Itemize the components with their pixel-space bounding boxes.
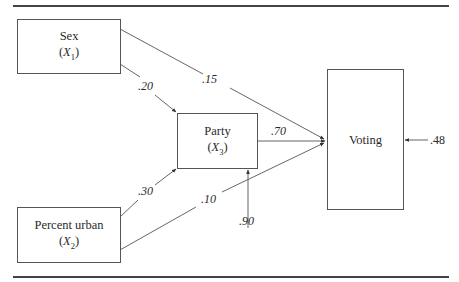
arrow-sex-to-party [120, 64, 140, 77]
coef-party-to-voting: .70 [271, 124, 286, 139]
arrow-urban-to-voting [120, 207, 196, 250]
arrow-urban-to-party [120, 200, 138, 217]
node-party-variable: (X3) [207, 139, 227, 160]
node-party: Party (X3) [177, 113, 258, 169]
coef-urban-to-voting: .10 [201, 192, 216, 207]
node-voting: Voting [327, 69, 404, 210]
node-percent-urban: Percent urban (X2) [17, 207, 121, 263]
node-sex-label: Sex [60, 28, 79, 44]
node-urban-label: Percent urban [34, 217, 103, 233]
node-sex-variable: (X1) [59, 44, 79, 65]
coef-party-residual: .90 [239, 214, 254, 229]
node-party-label: Party [204, 123, 230, 139]
node-urban-variable: (X2) [59, 233, 79, 254]
node-sex: Sex (X1) [17, 19, 121, 74]
coef-sex-to-party: .20 [138, 79, 153, 94]
coef-sex-to-voting: .15 [202, 72, 217, 87]
coef-voting-residual: .48 [430, 133, 445, 148]
coef-urban-to-party: .30 [138, 184, 153, 199]
arrow-sex-to-voting [120, 29, 203, 74]
node-voting-label: Voting [349, 132, 382, 148]
